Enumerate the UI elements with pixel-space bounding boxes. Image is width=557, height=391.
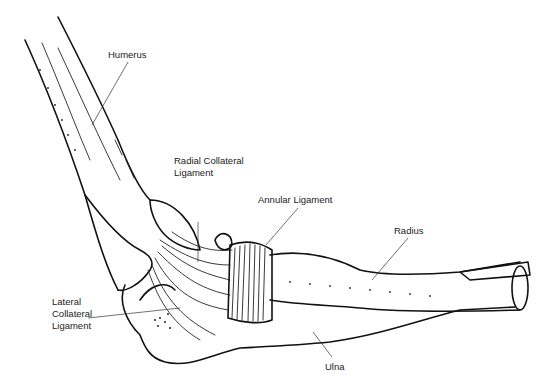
label-annular-ligament: Annular Ligament <box>258 194 332 206</box>
lateral-collateral-leader <box>88 308 180 318</box>
elbow-diagram: Humerus Radial Collateral Ligament Annul… <box>0 0 557 391</box>
radius-outline <box>270 253 520 274</box>
label-radius: Radius <box>394 225 424 237</box>
humerus-leader <box>92 62 128 125</box>
label-lateral-collateral-ligament: Lateral Collateral Ligament <box>52 296 92 332</box>
label-radial-collateral-ligament: Radial Collateral Ligament <box>174 155 244 179</box>
label-humerus: Humerus <box>108 49 147 61</box>
ulna-leader <box>313 332 332 357</box>
label-ulna: Ulna <box>325 361 345 373</box>
ulna-outline <box>122 285 515 364</box>
humerus-outline-right <box>58 17 150 200</box>
annular-leader <box>266 208 298 245</box>
